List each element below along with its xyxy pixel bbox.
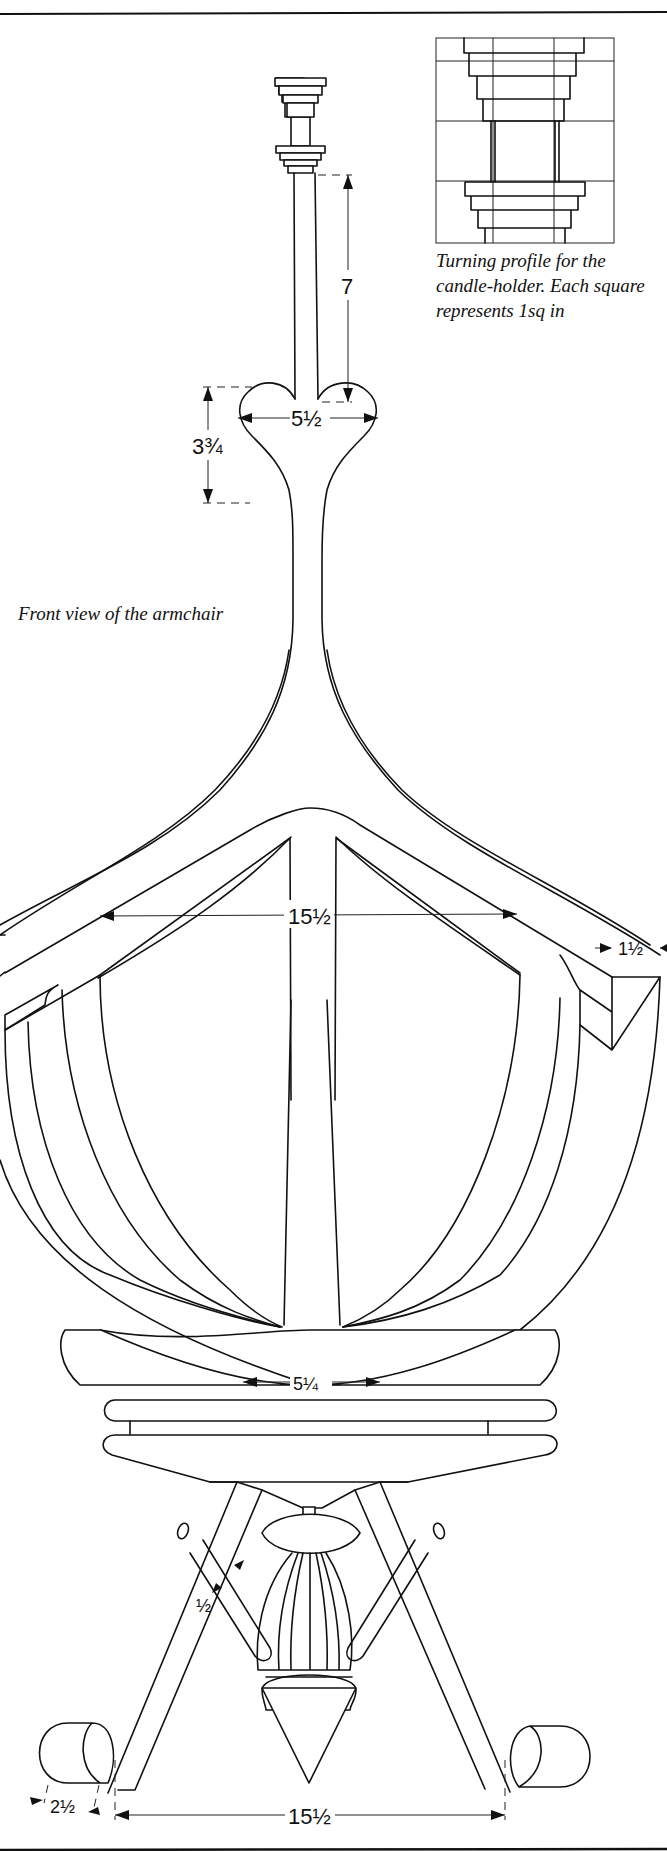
arm-left-block <box>5 985 58 1030</box>
leg-right <box>355 1482 510 1792</box>
leg-left <box>108 1482 262 1793</box>
profile-top-steps <box>464 38 584 121</box>
dim-stem-height-label: 7 <box>341 274 353 299</box>
candle-holder <box>275 78 326 173</box>
stem-right-edge <box>315 173 318 399</box>
foot-right <box>510 1726 590 1787</box>
rib-right-2 <box>343 998 560 1327</box>
rib-left-4 <box>100 975 282 1327</box>
dim-stretcher-thickness-label: ½ <box>196 1596 211 1616</box>
chair-frame <box>0 808 660 1385</box>
dim-arrow <box>491 1810 505 1820</box>
dim-arrow <box>100 911 114 921</box>
dim-arrow <box>212 1583 222 1593</box>
dim-arrow <box>600 943 612 953</box>
candle-collar-2 <box>280 153 321 160</box>
arch-rail-top <box>5 808 612 977</box>
candle-collar-1 <box>276 146 325 153</box>
inner-bow <box>100 1330 518 1337</box>
seat-ring-spacer <box>130 1421 488 1434</box>
dim-foot-spacing-label: 15½ <box>288 1804 331 1829</box>
front-view-caption: Front view of the armchair <box>18 601 298 626</box>
stretcher-arch <box>262 1490 355 1508</box>
leg-right-peg-hole <box>432 1522 447 1540</box>
stem-left-edge <box>294 173 295 399</box>
candle-neck-body <box>291 117 310 146</box>
foot-left <box>40 1723 114 1783</box>
dim-arrow <box>343 388 353 402</box>
finial-point <box>262 1688 356 1783</box>
candle-collar-4 <box>288 166 313 173</box>
turning-profile-diagram <box>436 38 614 243</box>
dim-arrow <box>203 387 213 401</box>
dim-seat-width-label: 15½ <box>288 904 331 929</box>
dim-arrow <box>343 175 353 189</box>
top-rule <box>0 12 667 14</box>
arch-rail-bottom <box>5 838 520 1100</box>
profile-grid-frame <box>436 38 614 243</box>
dim-arm-thickness-label: 1½ <box>618 939 643 959</box>
arm-left-upper <box>0 972 5 976</box>
candle-cap-2 <box>279 86 322 95</box>
profile-shaft <box>491 121 559 182</box>
seat-base <box>61 1330 559 1482</box>
dim-leg-top-spacing-label: 5¼ <box>293 1374 319 1394</box>
stretchers-finial <box>190 1490 428 1783</box>
center-splat-left <box>284 1000 291 1325</box>
leg-left-peg-hole <box>176 1522 191 1540</box>
candle-cap-top <box>275 78 326 86</box>
stretcher-right <box>347 1540 428 1661</box>
dim-arrow <box>88 1807 100 1815</box>
rib-left-3 <box>62 990 280 1327</box>
rib-left-1 <box>5 1030 280 1327</box>
dim-arrow <box>115 1810 129 1820</box>
dim-crest-height-label: 3¾ <box>192 434 223 459</box>
turning-profile-caption: Turning profile for the candle-holder. E… <box>436 248 661 323</box>
seat-ring-upper <box>104 1400 556 1421</box>
dimensions: 7 5½ 3¾ 15½ 1½ 5¼ ½ <box>30 175 667 1829</box>
dim-foot-ext <box>44 1785 48 1803</box>
dim-foot-width-label: 2½ <box>50 1797 75 1817</box>
arm-right-block <box>560 955 660 1050</box>
rib-right-1 <box>343 975 520 1327</box>
candle-collar-3 <box>284 160 317 166</box>
center-splat-right <box>327 1000 340 1325</box>
candle-cap-4 <box>287 103 314 117</box>
seat-underframe <box>103 1435 557 1482</box>
bottom-rule <box>0 1849 667 1850</box>
dim-arrow <box>203 489 213 503</box>
dim-crest-width-label: 5½ <box>291 406 322 431</box>
rib-right-3 <box>343 1025 580 1327</box>
profile-bottom-steps <box>465 182 585 243</box>
dim-arrow <box>30 1797 43 1805</box>
finial-bulb <box>262 1514 360 1553</box>
rib-left-2 <box>28 1022 280 1327</box>
candle-cap-3 <box>283 95 318 103</box>
dim-arrow <box>234 1560 244 1570</box>
dim-arrow <box>660 944 667 952</box>
crest-inner-right <box>327 650 650 945</box>
